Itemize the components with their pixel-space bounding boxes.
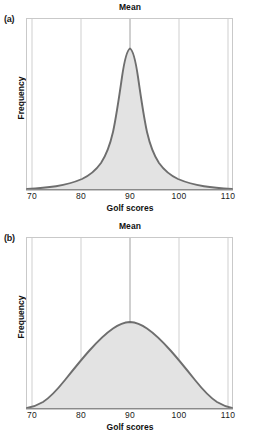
y-axis-label-text-b: Frequency (16, 296, 26, 339)
x-tick-100-b: 100 (171, 410, 186, 420)
x-tick-110-b: 110 (221, 410, 235, 420)
x-axis-label-a: Golf scores (2, 203, 256, 213)
x-tick-80-a: 80 (76, 191, 86, 201)
x-tick-90-b: 90 (125, 410, 135, 420)
distribution-chart-a (26, 18, 233, 191)
mean-title-a: Mean (2, 2, 256, 12)
x-tick-90-a: 90 (125, 191, 135, 201)
x-tick-100-a: 100 (171, 191, 186, 201)
panel-b: (b) Mean Frequency 70 80 90 100 110 Go (0, 219, 256, 438)
mean-title-b: Mean (2, 221, 256, 231)
x-tick-80-b: 80 (76, 410, 86, 420)
x-axis-label-b: Golf scores (2, 422, 256, 432)
x-tick-70-b: 70 (27, 410, 37, 420)
y-axis-label-a: Frequency (2, 0, 12, 66)
distribution-chart-b (26, 237, 233, 410)
y-axis-label-b: Frequency (2, 205, 12, 285)
y-axis-label-text-a: Frequency (16, 77, 26, 120)
panel-a: (a) Mean Frequency 70 80 (0, 0, 256, 219)
x-tick-70-a: 70 (27, 191, 37, 201)
x-tick-110-a: 110 (221, 191, 235, 201)
plot-area-b (26, 237, 233, 410)
plot-area-a (26, 18, 233, 191)
